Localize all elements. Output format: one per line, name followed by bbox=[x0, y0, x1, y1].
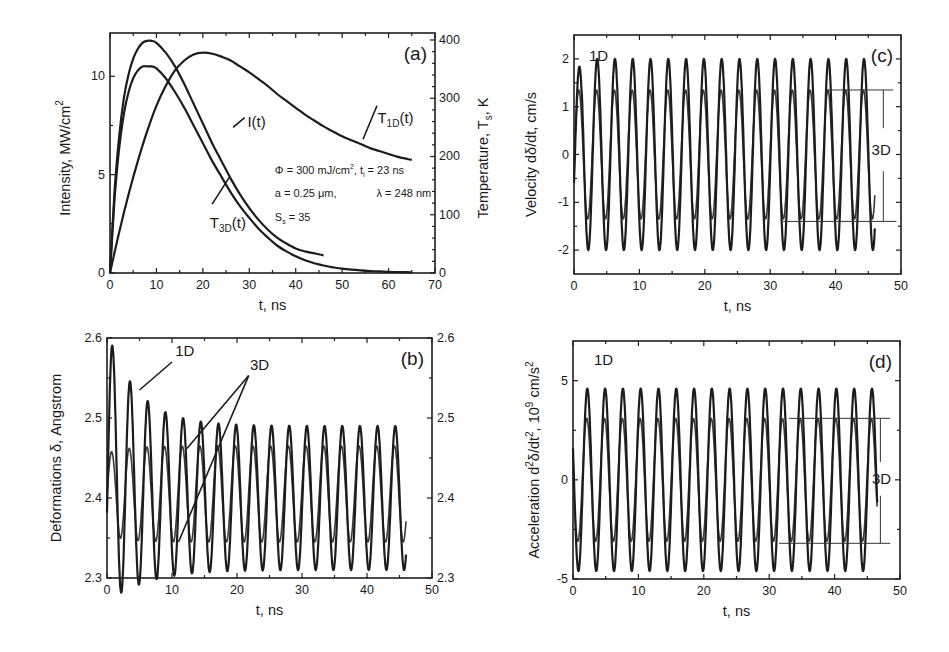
panel-c: 01020304050-2-1012t, ns(c)Velocity dδ/dt… bbox=[523, 35, 908, 314]
y-right-tick-label: 0 bbox=[439, 266, 446, 280]
parameter-note-line3: Ss = 35 bbox=[275, 211, 311, 225]
figure: 01020304050607005100100200300400t, ns(a)… bbox=[0, 0, 949, 652]
series-line-1d bbox=[107, 346, 406, 593]
panel-a: 01020304050607005100100200300400t, ns(a)… bbox=[54, 33, 494, 313]
leader-line bbox=[212, 177, 230, 205]
x-tick-label: 30 bbox=[762, 584, 776, 598]
y-right-tick-label: 100 bbox=[439, 208, 460, 222]
x-axis-label: t, ns bbox=[724, 298, 751, 314]
y-tick-label: 5 bbox=[561, 374, 568, 388]
x-tick-label: 50 bbox=[425, 583, 439, 597]
x-tick-label: 50 bbox=[893, 584, 907, 598]
y-tick-label: 2.3 bbox=[85, 571, 102, 585]
x-tick-label: 50 bbox=[335, 278, 349, 292]
parameter-note-line2: a = 0.25 μm, bbox=[275, 187, 337, 199]
x-tick-label: 10 bbox=[165, 583, 179, 597]
leader-line bbox=[233, 118, 245, 128]
x-tick-label: 0 bbox=[104, 583, 111, 597]
y-right-tick-label: 2.4 bbox=[437, 491, 454, 505]
x-tick-label: 30 bbox=[242, 278, 256, 292]
parameter-note-line1: Φ = 300 mJ/cm2, ti = 23 ns bbox=[275, 163, 405, 178]
y-tick-label: 2.6 bbox=[85, 331, 102, 345]
y-axis-label: Velocity dδ/dt, cm/s bbox=[523, 92, 539, 217]
x-tick-label: 40 bbox=[828, 584, 842, 598]
y-right-tick-label: 2.6 bbox=[437, 331, 454, 345]
y-axis-label: Intensity, MW/cm2 bbox=[54, 100, 73, 216]
panel-d: 01020304050-505t, ns(d)Acceleration d2δ/… bbox=[524, 341, 907, 619]
y-tick-label: 2 bbox=[562, 52, 569, 66]
x-tick-label: 30 bbox=[295, 583, 309, 597]
y-right-tick-label: 2.3 bbox=[437, 571, 454, 585]
y-right-tick-label: 400 bbox=[439, 33, 460, 47]
x-axis-label: t, ns bbox=[723, 603, 750, 619]
x-tick-label: 50 bbox=[894, 279, 908, 293]
y-axis-label: Acceleration d2δ/dt2, 109 cm/s2 bbox=[524, 361, 542, 559]
x-tick-label: 40 bbox=[829, 279, 843, 293]
annotation-3d: 3D bbox=[872, 141, 891, 158]
x-tick-label: 30 bbox=[763, 279, 777, 293]
series-label-t3d: T3D(t) bbox=[210, 214, 246, 234]
y-tick-label: 1 bbox=[562, 100, 569, 114]
annotation-1d: 1D bbox=[589, 47, 608, 64]
annotation-3d: 3D bbox=[872, 470, 891, 487]
y-tick-label: -1 bbox=[558, 195, 569, 209]
series-label-t1d: T1D(t) bbox=[377, 109, 413, 129]
x-tick-label: 20 bbox=[196, 278, 210, 292]
panel-tag: (a) bbox=[404, 43, 427, 64]
y-axis-label-right: Temperature, Ts, K bbox=[475, 97, 494, 218]
x-tick-label: 20 bbox=[698, 279, 712, 293]
panel-tag: (c) bbox=[871, 45, 893, 66]
y-tick-label: 10 bbox=[91, 69, 105, 83]
annotation-1d: 1D bbox=[594, 351, 613, 368]
y-tick-label: 0 bbox=[561, 473, 568, 487]
y-axis-label: Deformations δ, Angstrom bbox=[48, 374, 64, 542]
x-tick-label: 20 bbox=[697, 584, 711, 598]
y-right-tick-label: 200 bbox=[439, 149, 460, 163]
y-right-tick-label: 2.5 bbox=[437, 411, 454, 425]
y-right-tick-label: 300 bbox=[439, 91, 460, 105]
x-tick-label: 0 bbox=[571, 279, 578, 293]
panel-tag: (d) bbox=[869, 351, 892, 372]
y-tick-label: 2.4 bbox=[85, 491, 102, 505]
leader-line bbox=[363, 106, 377, 139]
parameter-note-wavelength: λ = 248 nm bbox=[377, 187, 432, 199]
x-tick-label: 10 bbox=[149, 278, 163, 292]
x-tick-label: 10 bbox=[631, 584, 645, 598]
x-axis-label: t, ns bbox=[256, 602, 283, 618]
x-tick-label: 10 bbox=[632, 279, 646, 293]
panel-b: 010203040502.32.42.52.62.32.42.52.6t, ns… bbox=[48, 331, 454, 618]
annotation-1d: 1D bbox=[175, 342, 194, 359]
leader-line bbox=[140, 362, 173, 390]
x-axis-label: t, ns bbox=[259, 297, 286, 313]
panel-tag: (b) bbox=[401, 348, 424, 369]
x-tick-label: 20 bbox=[230, 583, 244, 597]
annotation-3d: 3D bbox=[250, 356, 269, 373]
y-tick-label: 2.5 bbox=[85, 411, 102, 425]
x-tick-label: 0 bbox=[107, 278, 114, 292]
y-tick-label: 0 bbox=[562, 148, 569, 162]
x-tick-label: 0 bbox=[570, 584, 577, 598]
x-tick-label: 40 bbox=[289, 278, 303, 292]
x-tick-label: 60 bbox=[382, 278, 396, 292]
x-tick-label: 70 bbox=[428, 278, 442, 292]
series-label-i: I(t) bbox=[247, 113, 265, 130]
series-line-it bbox=[110, 41, 324, 273]
y-tick-label: -5 bbox=[557, 572, 568, 586]
y-tick-label: -2 bbox=[558, 243, 569, 257]
x-tick-label: 40 bbox=[360, 583, 374, 597]
y-tick-label: 5 bbox=[98, 168, 105, 182]
y-tick-label: 0 bbox=[98, 266, 105, 280]
